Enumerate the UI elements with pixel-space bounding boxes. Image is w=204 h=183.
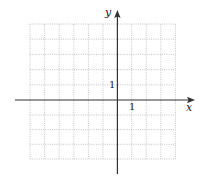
y-axis-label: y: [105, 7, 111, 18]
y-unit-label: 1: [109, 80, 115, 90]
x-axis-label: x: [186, 102, 192, 113]
x-unit-label: 1: [129, 102, 135, 112]
axes: [15, 10, 195, 174]
coordinate-plane: [0, 0, 204, 183]
grid: [30, 24, 175, 159]
